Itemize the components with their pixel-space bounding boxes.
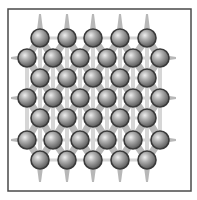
atom-sphere [111,29,129,47]
atom-sphere [111,151,129,169]
atom-sphere [124,49,142,67]
atom-sphere [98,89,116,107]
atom-sphere [18,131,36,149]
atom-sphere [31,151,49,169]
atom-sphere [84,109,102,127]
atom-sphere [124,89,142,107]
atom-sphere [44,131,62,149]
atom-sphere [138,109,156,127]
atom-sphere [84,151,102,169]
atom-sphere [151,49,169,67]
atom-sphere [84,69,102,87]
lattice-figure [0,0,197,200]
atom-sphere [151,89,169,107]
atom-sphere [124,131,142,149]
atom-sphere [31,69,49,87]
atom-sphere [18,89,36,107]
atom-sphere [31,29,49,47]
atom-sphere [31,109,49,127]
lattice-diagram [0,0,197,200]
atom-sphere [44,49,62,67]
atom-sphere [138,69,156,87]
atom-sphere [138,29,156,47]
atom-sphere [58,151,76,169]
atom-sphere [98,131,116,149]
atom-sphere [111,69,129,87]
atom-sphere [84,29,102,47]
atom-sphere [138,151,156,169]
atom-sphere [58,109,76,127]
atom-sphere [18,49,36,67]
atom-sphere [44,89,62,107]
atom-sphere [151,131,169,149]
atom-sphere [71,131,89,149]
atom-sphere [98,49,116,67]
atom-sphere [71,89,89,107]
atom-sphere [58,29,76,47]
atom-sphere [111,109,129,127]
atom-sphere [58,69,76,87]
atom-sphere [71,49,89,67]
